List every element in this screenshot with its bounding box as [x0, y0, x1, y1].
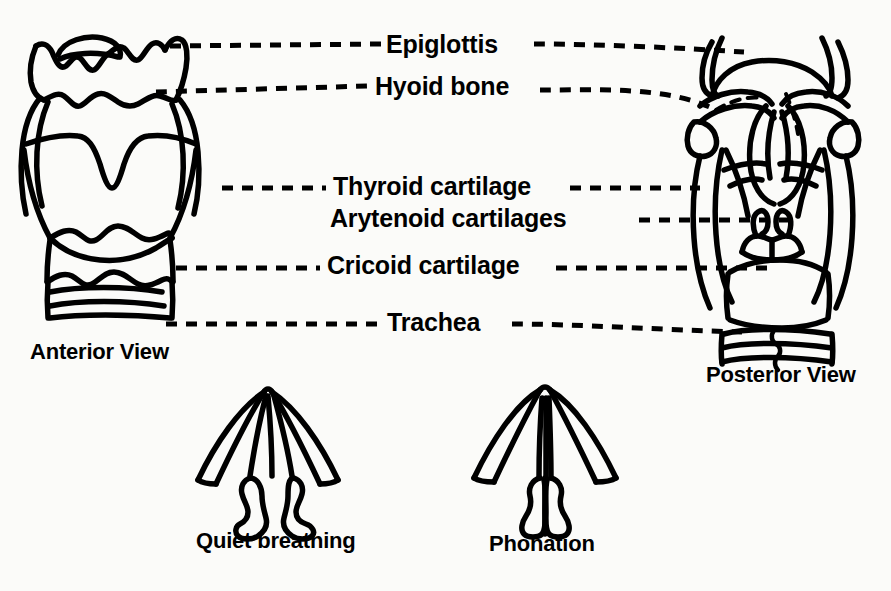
label-cricoid-cartilage: Cricoid cartilage: [327, 253, 520, 278]
caption-anterior-view: Anterior View: [30, 341, 169, 363]
label-epiglottis: Epiglottis: [386, 32, 498, 57]
posterior-larynx-drawing: [687, 38, 859, 370]
label-trachea: Trachea: [387, 310, 480, 335]
vocal-folds-adducted-drawing: [474, 387, 616, 537]
label-thyroid-cartilage: Thyroid cartilage: [333, 174, 531, 199]
leader-trachea-right: [512, 324, 742, 332]
leader-hyoid-right: [540, 90, 716, 110]
leader-hyoid-left: [156, 86, 368, 92]
vocal-folds-abducted-drawing: [198, 389, 338, 539]
figure-canvas: Epiglottis Hyoid bone Thyroid cartilage …: [0, 0, 891, 591]
caption-quiet-breathing: Quiet breathing: [196, 530, 356, 552]
leader-epiglottis-left: [170, 44, 382, 46]
caption-phonation: Phonation: [489, 533, 595, 555]
label-hyoid-bone: Hyoid bone: [375, 74, 509, 99]
anterior-larynx-drawing: [21, 37, 199, 318]
caption-posterior-view: Posterior View: [706, 364, 856, 386]
label-arytenoid-cartilages: Arytenoid cartilages: [330, 206, 566, 231]
